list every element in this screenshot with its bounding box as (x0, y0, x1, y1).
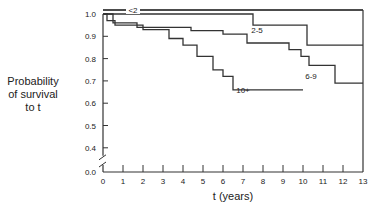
x-tick-label: 9 (281, 177, 286, 186)
y-tick-label: 0.7 (85, 77, 97, 86)
y-tick-label: 0.0 (85, 168, 97, 177)
y-tick-label: 0.6 (85, 99, 97, 108)
x-tick-label: 7 (241, 177, 246, 186)
curve-label-6-9: 6-9 (305, 72, 317, 81)
axes: 0.00.40.50.60.70.80.91.00123456789101112… (85, 10, 368, 186)
x-tick-label: 5 (201, 177, 206, 186)
x-axis-label: t (years) (213, 190, 253, 202)
curve-label--2: <2 (128, 6, 138, 15)
x-tick-label: 3 (161, 177, 166, 186)
y-tick-label: 0.8 (85, 55, 97, 64)
x-tick-label: 0 (101, 177, 106, 186)
y-tick-label: 0.4 (85, 144, 97, 153)
x-tick-label: 8 (261, 177, 266, 186)
x-tick-label: 11 (319, 177, 328, 186)
x-tick-label: 4 (181, 177, 186, 186)
y-tick-label: 1.0 (85, 10, 97, 19)
y-tick-label: 0.5 (85, 122, 97, 131)
survival-curves (103, 10, 363, 90)
survival-curve-6-9 (103, 14, 363, 83)
x-tick-label: 2 (141, 177, 146, 186)
x-tick-label: 1 (121, 177, 126, 186)
x-tick-label: 13 (359, 177, 368, 186)
y-tick-label: 0.9 (85, 32, 97, 41)
x-tick-label: 12 (339, 177, 348, 186)
curve-label-10-: 10+ (236, 86, 250, 95)
x-tick-label: 10 (299, 177, 308, 186)
survival-curve-2-5 (103, 14, 363, 45)
survival-chart: 0.00.40.50.60.70.80.91.00123456789101112… (0, 0, 382, 209)
curve-label-2-5: 2-5 (251, 26, 263, 35)
x-tick-label: 6 (221, 177, 226, 186)
